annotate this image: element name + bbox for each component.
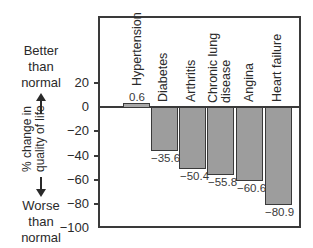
better-line-1: Better: [6, 43, 76, 59]
bar-chronic-lung-disease: [207, 107, 234, 175]
tick-minus-60: [94, 179, 100, 181]
tick-label-minus-100: −100: [31, 221, 89, 235]
bar-angina: [236, 107, 263, 181]
tick-minus-80: [94, 203, 100, 205]
category-label-chronic-line-2: disease: [220, 60, 233, 103]
tick-minus-20: [94, 130, 100, 132]
tick-label-minus-60: −60: [31, 173, 89, 187]
value-label-heart-failure: −80.9: [265, 206, 294, 218]
category-label-hypertension: Hypertension: [131, 12, 144, 86]
bar-heart-failure: [265, 107, 292, 205]
value-label-arthritis: −50.4: [180, 170, 209, 182]
better-line-2: than: [6, 59, 76, 75]
category-label-arthritis: Arthritis: [185, 60, 198, 102]
tick-minus-40: [94, 155, 100, 157]
tick-label-minus-80: −80: [31, 197, 89, 211]
tick-label-minus-20: −20: [31, 124, 89, 138]
category-label-angina: Angina: [243, 63, 256, 102]
value-label-chronic-lung-disease: −55.8: [208, 176, 237, 188]
value-label-angina: −60.6: [237, 182, 266, 194]
bar-diabetes: [151, 107, 178, 151]
bar-hypertension: [123, 103, 150, 108]
tick-label-minus-40: −40: [31, 149, 89, 163]
category-label-diabetes: Diabetes: [157, 53, 170, 102]
category-label-heart-failure: Heart failure: [271, 34, 284, 102]
tick-label-20: 20: [31, 76, 89, 90]
value-label-diabetes: −35.6: [151, 152, 180, 164]
bar-arthritis: [179, 107, 206, 169]
value-label-hypertension: 0.6: [129, 91, 145, 103]
tick-20: [94, 82, 100, 84]
tick-label-0: 0: [31, 100, 89, 114]
